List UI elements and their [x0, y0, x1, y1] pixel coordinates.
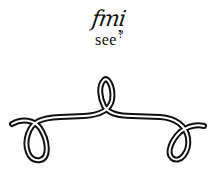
rope-ornament-icon [0, 0, 214, 190]
